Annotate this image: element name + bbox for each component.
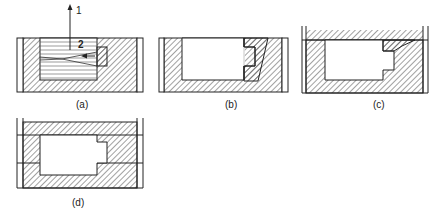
svg-text:(a): (a) xyxy=(76,99,88,110)
svg-text:1: 1 xyxy=(76,5,82,16)
panel-c: (c) xyxy=(302,26,428,110)
panel-b: (b) xyxy=(159,38,288,110)
svg-text:(c): (c) xyxy=(373,99,385,110)
arrow-up-icon xyxy=(68,4,73,10)
svg-text:(b): (b) xyxy=(225,99,237,110)
panel-d: (d) xyxy=(17,118,143,208)
svg-text:(d): (d) xyxy=(72,197,84,208)
loose-piece xyxy=(97,47,107,66)
mould-cavity xyxy=(182,38,244,80)
svg-text:2: 2 xyxy=(78,39,84,50)
mould-cavity xyxy=(40,135,107,175)
mould-diagram: 1 2 (a) (b) (c) xyxy=(0,0,446,218)
panel-a: 1 2 (a) xyxy=(17,4,143,110)
